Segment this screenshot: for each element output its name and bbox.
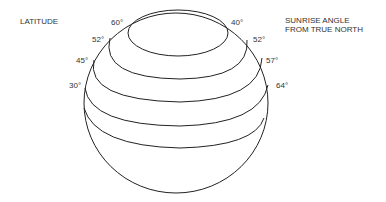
globe-outline bbox=[84, 13, 268, 193]
sunrise-angle-57: 57° bbox=[266, 56, 278, 65]
latitude-ring-20 bbox=[84, 108, 264, 148]
sunrise-angle-52: 52° bbox=[253, 35, 265, 44]
latitude-label-60: 60° bbox=[111, 18, 123, 27]
latitude-ring-52 bbox=[109, 38, 247, 79]
latitude-ring-45 bbox=[93, 58, 262, 102]
sunrise-angle-64: 64° bbox=[276, 81, 288, 90]
latitude-label-30: 30° bbox=[69, 81, 81, 90]
latitude-label-52: 52° bbox=[92, 35, 104, 44]
latitude-ring-60 bbox=[128, 10, 228, 56]
globe-diagram bbox=[0, 0, 386, 202]
latitude-label-45: 45° bbox=[76, 56, 88, 65]
sunrise-angle-40: 40° bbox=[231, 18, 243, 27]
